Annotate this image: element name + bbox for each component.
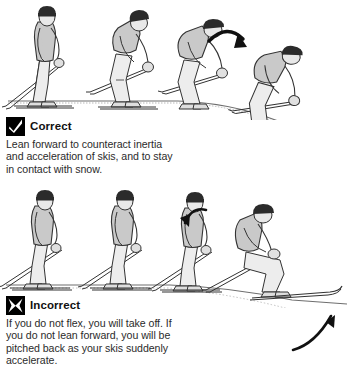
x-mark-icon xyxy=(6,296,25,315)
caption-incorrect-line-1: If you do not flex, you will take off. I… xyxy=(6,317,224,329)
caption-incorrect-heading: Incorrect xyxy=(6,296,224,315)
caption-correct-body: Lean forward to counteract inertia and a… xyxy=(6,138,220,175)
caption-incorrect: Incorrect If you do not flex, you will t… xyxy=(6,296,224,367)
illustration-incorrect-sequence xyxy=(0,186,347,308)
caption-incorrect-title: Incorrect xyxy=(30,299,80,312)
illustration-correct-sequence xyxy=(0,0,347,120)
ski-acceleration-arrow xyxy=(285,298,347,358)
caption-correct-heading: Correct xyxy=(6,117,220,136)
skier-figure-4 xyxy=(226,38,307,120)
caption-incorrect-line-4: accelerate. xyxy=(6,354,224,366)
panel-correct: Correct Lean forward to counteract inert… xyxy=(0,0,347,186)
caption-correct-line-2: and acceleration of skis, and to stay xyxy=(6,150,220,162)
skier-figure-2 xyxy=(86,10,158,109)
skier-figure-6 xyxy=(78,190,152,290)
caption-correct: Correct Lean forward to counteract inert… xyxy=(6,117,220,175)
panel-incorrect: Incorrect If you do not flex, you will t… xyxy=(0,186,347,371)
skier-figure-7 xyxy=(148,192,222,292)
skier-figure-5 xyxy=(0,190,72,290)
skier-figure-8 xyxy=(202,204,291,297)
caption-correct-line-3: in contact with snow. xyxy=(6,163,220,175)
caption-incorrect-body: If you do not flex, you will take off. I… xyxy=(6,317,224,367)
checkmark-icon xyxy=(6,117,25,136)
caption-correct-title: Correct xyxy=(30,120,72,133)
caption-incorrect-line-2: you do not lean forward, you will be xyxy=(6,329,224,341)
caption-incorrect-line-3: pitched back as your skis suddenly xyxy=(6,342,224,354)
caption-correct-line-1: Lean forward to counteract inertia xyxy=(6,138,220,150)
skier-figure-3 xyxy=(158,19,228,109)
skier-figure-1 xyxy=(2,6,74,109)
